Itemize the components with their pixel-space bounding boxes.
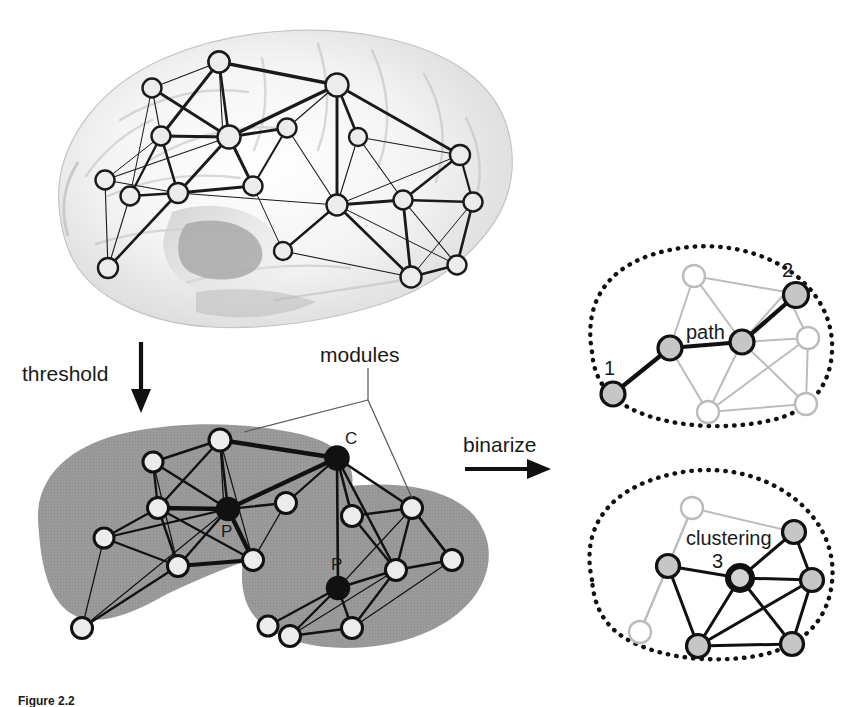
module-node bbox=[209, 429, 231, 451]
brain-node bbox=[278, 119, 297, 138]
figure-caption: Figure 2.2 bbox=[18, 694, 75, 707]
module-node bbox=[72, 618, 93, 639]
module-node bbox=[148, 498, 169, 519]
clustering-node bbox=[801, 569, 824, 592]
clustering-node bbox=[783, 521, 806, 544]
modules-label: modules bbox=[320, 343, 399, 366]
brain-node bbox=[326, 74, 349, 97]
path-node bbox=[797, 327, 819, 349]
connector-hub-label: C bbox=[345, 429, 357, 448]
brain-node bbox=[274, 242, 292, 260]
module-node bbox=[442, 550, 463, 571]
path-node-active bbox=[730, 330, 754, 354]
brain-node bbox=[244, 177, 263, 196]
clustering-node bbox=[687, 635, 710, 658]
brain-node bbox=[349, 128, 367, 146]
clustering-node bbox=[781, 633, 804, 656]
brain-node bbox=[218, 126, 241, 149]
module-node bbox=[94, 528, 114, 548]
figure-caption-text: Figure 2.2 bbox=[18, 694, 75, 707]
path-endpoint-node-1 bbox=[601, 382, 625, 406]
module-node bbox=[276, 493, 297, 514]
brain-node bbox=[464, 193, 483, 212]
brain-node bbox=[448, 256, 467, 275]
path-endpoint-node-2 bbox=[784, 283, 809, 308]
provincial-hub-node-right bbox=[327, 577, 349, 599]
brain-node bbox=[143, 79, 162, 98]
clustering-hub-node-3 bbox=[728, 566, 752, 590]
path-node-number-2: 2 bbox=[782, 259, 793, 281]
brain-node bbox=[168, 183, 188, 203]
module-node bbox=[243, 550, 264, 571]
brain-node bbox=[98, 258, 118, 278]
brain-node bbox=[209, 52, 230, 73]
module-node bbox=[386, 560, 407, 581]
brain-node bbox=[450, 145, 470, 165]
path-node-number-1: 1 bbox=[604, 357, 615, 379]
connector-hub-node bbox=[326, 447, 349, 470]
clustering-node bbox=[629, 621, 651, 643]
brain-node bbox=[401, 267, 422, 288]
path-label: path bbox=[686, 321, 725, 343]
brain-node bbox=[394, 191, 413, 210]
module-node bbox=[258, 616, 278, 636]
brain-node bbox=[121, 187, 140, 206]
path-node bbox=[795, 393, 817, 415]
provincial-hub-label-right: P bbox=[331, 555, 342, 574]
module-node bbox=[342, 506, 363, 527]
figure-root: threshold bbox=[0, 0, 856, 707]
clustering-label: clustering bbox=[686, 527, 772, 549]
clustering-node bbox=[681, 497, 703, 519]
clustering-node bbox=[657, 555, 680, 578]
module-node bbox=[402, 498, 423, 519]
path-node bbox=[697, 401, 719, 423]
module-node bbox=[280, 626, 301, 647]
provincial-hub-label-left: P bbox=[221, 522, 232, 541]
brain-node bbox=[96, 171, 115, 190]
clustering-node-number-3: 3 bbox=[712, 550, 723, 572]
path-node-active bbox=[658, 336, 682, 360]
threshold-label: threshold bbox=[22, 362, 108, 385]
brain-node bbox=[152, 127, 171, 146]
binarize-label: binarize bbox=[463, 433, 537, 456]
brain-node bbox=[327, 195, 348, 216]
module-node bbox=[143, 452, 163, 472]
module-node bbox=[168, 556, 189, 577]
path-node bbox=[683, 265, 705, 287]
provincial-hub-node-left bbox=[217, 498, 239, 520]
module-node bbox=[342, 618, 363, 639]
